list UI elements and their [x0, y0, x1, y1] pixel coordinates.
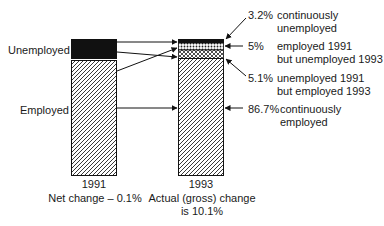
label-unemployed: Unemployed — [8, 44, 70, 57]
arrow-employed-to-unemployed — [117, 48, 177, 71]
annotation-desc-unemployed-then-employed-1: unemployed 1991 — [277, 72, 364, 85]
bar-1991-unemployed-segment — [71, 39, 117, 59]
gross-change-caption-line1: Actual (gross) change — [148, 192, 256, 205]
annotation-pct-continuously-employed: 86.7% — [248, 103, 279, 116]
annotation-desc-employed-then-unemployed-1: employed 1991 — [277, 40, 352, 53]
annotation-pct-employed-then-unemployed: 5% — [248, 40, 264, 53]
annotation-pct-unemployed-then-employed: 5.1% — [248, 72, 273, 85]
annotation-desc-continuously-unemployed-2: unemployed — [277, 22, 337, 35]
annotation-desc-employed-then-unemployed-2: but unemployed 1993 — [277, 53, 383, 66]
bar-1991 — [71, 39, 117, 176]
leader-3-2 — [226, 18, 246, 39]
bar-1993 — [178, 39, 224, 176]
year-1993: 1993 — [178, 178, 224, 191]
gross-change-caption-line2: is 10.1% — [148, 205, 256, 218]
annotation-pct-continuously-unemployed: 3.2% — [248, 9, 273, 22]
bar-1993-continuously-unemployed-segment — [178, 39, 224, 43]
flow-arrows — [117, 42, 177, 108]
bar-1991-employed-segment — [72, 61, 117, 176]
annotation-desc-unemployed-then-employed-2: but employed 1993 — [277, 85, 371, 98]
bar-1993-continuously-employed-segment — [179, 59, 224, 176]
annotation-desc-continuously-unemployed-1: continuously — [277, 9, 338, 22]
net-change-caption: Net change – 0.1% — [40, 192, 150, 205]
label-employed: Employed — [20, 104, 69, 117]
bar-1993-employed-then-unemployed-segment — [179, 43, 224, 50]
year-1991: 1991 — [71, 178, 117, 191]
annotation-desc-continuously-employed-2: employed — [280, 116, 328, 129]
bar-1993-unemployed-then-employed-segment — [179, 50, 224, 59]
leader-5-1 — [226, 59, 246, 76]
leader-arrows — [225, 18, 246, 108]
annotation-desc-continuously-employed-1: continuously — [280, 103, 341, 116]
arrow-unemployed-to-employed — [117, 52, 177, 57]
